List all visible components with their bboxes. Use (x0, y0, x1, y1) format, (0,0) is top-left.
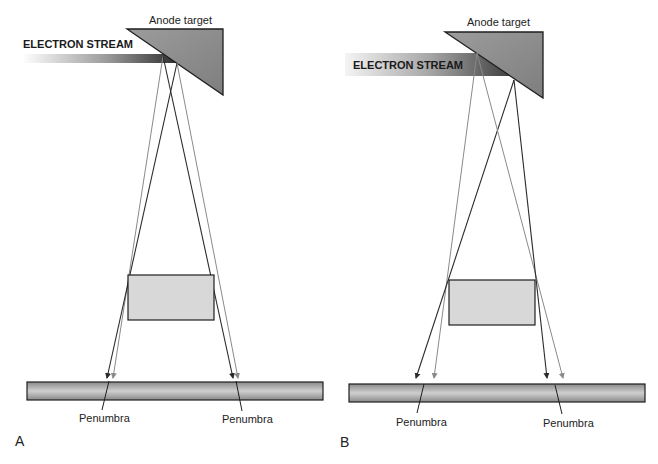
light-ray-left (113, 56, 163, 378)
electron-stream-beam (22, 54, 177, 63)
penumbra-diagram: Anode target ELECTRON STREAM Penumbra Pe… (0, 0, 658, 464)
image-receptor (27, 382, 323, 400)
penumbra-label-left: Penumbra (396, 416, 448, 428)
object (128, 275, 214, 320)
penumbra-label-right: Penumbra (543, 417, 595, 429)
dark-ray-left (107, 63, 177, 378)
light-ray-right (177, 63, 238, 378)
anode-target-label: Anode target (149, 14, 212, 26)
dark-ray-right (163, 56, 233, 378)
panel-label-a: A (15, 433, 25, 449)
anode-target-label: Anode target (467, 16, 530, 28)
electron-stream-label: ELECTRON STREAM (353, 59, 463, 71)
electron-stream-label: ELECTRON STREAM (23, 38, 133, 50)
light-ray-right (477, 53, 563, 378)
panel-label-b: B (340, 434, 349, 450)
penumbra-label-right: Penumbra (222, 413, 274, 425)
object (449, 280, 535, 325)
dark-ray-right (514, 80, 547, 378)
penumbra-label-left: Penumbra (79, 412, 131, 424)
panel-a: Anode target ELECTRON STREAM Penumbra Pe… (15, 14, 323, 449)
dark-ray-left (416, 80, 514, 378)
panel-b: Anode target ELECTRON STREAM Penumbra Pe… (340, 16, 645, 450)
image-receptor (349, 384, 645, 402)
light-ray-left (434, 53, 477, 378)
